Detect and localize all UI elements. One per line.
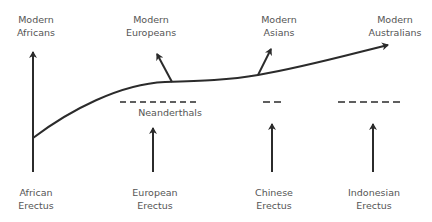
label-line: Indonesian <box>348 186 400 199</box>
label-modern-africans: Modern Africans <box>17 13 55 39</box>
label-african-erectus: African Erectus <box>18 186 53 212</box>
main-dispersal-curve <box>33 45 388 138</box>
label-indonesian-erectus: Indonesian Erectus <box>348 186 400 212</box>
label-line: Modern <box>369 13 422 26</box>
evolution-diagram: Modern Africans Modern Europeans Modern … <box>0 0 432 222</box>
label-neanderthals: Neanderthals <box>138 106 202 119</box>
label-line: African <box>18 186 53 199</box>
label-line: European <box>132 186 177 199</box>
label-line: Europeans <box>126 26 176 39</box>
label-line: Neanderthals <box>138 106 202 119</box>
label-modern-europeans: Modern Europeans <box>126 13 176 39</box>
label-modern-australians: Modern Australians <box>369 13 422 39</box>
label-line: Erectus <box>255 199 293 212</box>
label-line: Modern <box>17 13 55 26</box>
label-line: Africans <box>17 26 55 39</box>
label-line: Erectus <box>132 199 177 212</box>
label-modern-asians: Modern Asians <box>261 13 297 39</box>
label-line: Erectus <box>18 199 53 212</box>
label-line: Erectus <box>348 199 400 212</box>
label-european-erectus: European Erectus <box>132 186 177 212</box>
label-line: Asians <box>261 26 297 39</box>
label-line: Australians <box>369 26 422 39</box>
european-branch-arrow <box>157 54 172 82</box>
asian-branch-arrow <box>258 49 271 75</box>
label-line: Modern <box>261 13 297 26</box>
label-line: Modern <box>126 13 176 26</box>
label-chinese-erectus: Chinese Erectus <box>255 186 293 212</box>
label-line: Chinese <box>255 186 293 199</box>
